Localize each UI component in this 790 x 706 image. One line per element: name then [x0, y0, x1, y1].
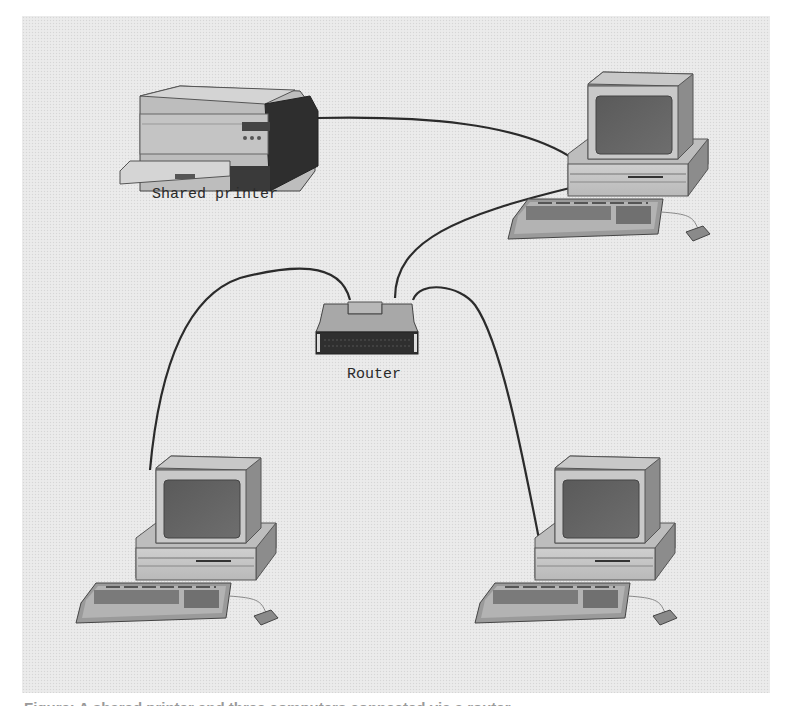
desktop-computer-icon-bottom-left — [76, 456, 278, 625]
cable-router-to-pc-left — [150, 269, 350, 470]
router-label: Router — [347, 366, 401, 383]
router-icon — [316, 302, 418, 354]
printer-label: Shared printer — [152, 186, 278, 203]
printer-icon — [120, 86, 318, 191]
figure-caption: Figure: A shared printer and three compu… — [24, 699, 511, 706]
network-diagram — [0, 0, 790, 706]
cable-printer-to-pc — [318, 118, 575, 160]
cable-router-to-pc-right — [413, 287, 545, 570]
desktop-computer-icon-bottom-right — [475, 456, 677, 625]
desktop-computer-icon-top-right — [508, 72, 710, 241]
